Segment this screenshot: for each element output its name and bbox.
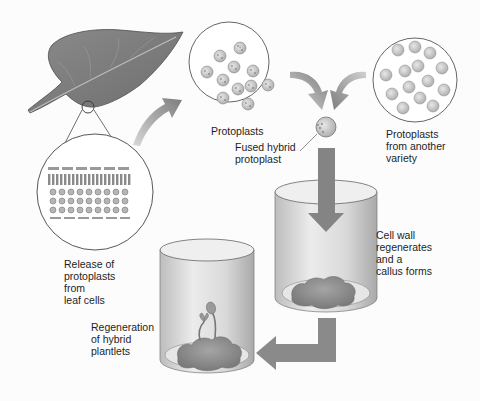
leaf-cross-section: [37, 110, 153, 250]
label-protoplasts: Protoplasts: [211, 125, 264, 137]
label-fused-hybrid-protoplast: Fused hybrid protoplast: [235, 141, 296, 165]
leaf: [28, 30, 183, 113]
arrow-right-converging: [330, 72, 366, 110]
protoplast-fusion-diagram: Protoplasts Fused hybrid protoplast Prot…: [0, 0, 480, 401]
label-regeneration-plantlets: Regeneration of hybrid plantlets: [91, 321, 154, 357]
label-release-of-protoplasts: Release of protoplasts from leaf cells: [64, 258, 115, 306]
protoplast-dish-1: [189, 22, 274, 110]
label-protoplasts-another-variety: Protoplasts from another variety: [386, 128, 446, 164]
culture-vessel-plantlets: [160, 239, 254, 373]
diagram-artwork: [0, 0, 480, 401]
fused-hybrid-protoplast: [300, 117, 336, 151]
protoplast-dish-2: [373, 38, 457, 122]
arrow-to-plantlets: [256, 318, 336, 370]
arrow-left-converging: [290, 72, 328, 110]
arrow-to-protoplasts: [133, 98, 182, 146]
label-cell-wall-regenerates: Cell wall regenerates and a callus forms: [376, 229, 432, 277]
